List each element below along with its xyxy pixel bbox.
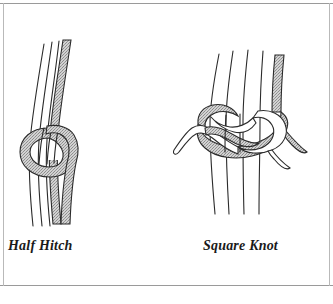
square-knot-shaded-top-tail xyxy=(272,55,284,112)
square-knot-light-tail xyxy=(268,150,290,169)
caption-square-knot: Square Knot xyxy=(203,238,278,254)
knot-figure: Half Hitch Square Knot xyxy=(0,0,333,304)
half-hitch-diagram xyxy=(20,40,78,226)
caption-half-hitch: Half Hitch xyxy=(8,238,73,254)
knot-illustrations xyxy=(0,0,333,304)
square-knot-diagram xyxy=(173,50,307,214)
